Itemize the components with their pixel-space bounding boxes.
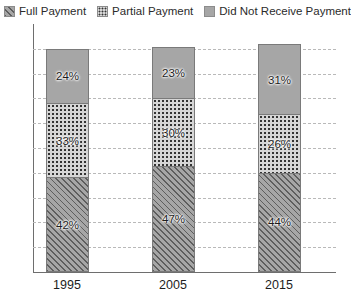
bar-segment-full-payment: 42% <box>46 177 89 272</box>
solid-swatch-icon <box>204 6 215 17</box>
bar-value-label: 44% <box>268 216 291 228</box>
bar-segment-partial-payment: 33% <box>46 103 89 177</box>
bar-group-2015: 31% 26% 44% <box>258 44 301 272</box>
bar-value-label: 30% <box>162 127 185 139</box>
bar-value-label: 47% <box>162 213 185 225</box>
chart-legend: Full Payment Partial Payment Did Not Rec… <box>0 0 344 22</box>
bar-segment-partial-payment: 30% <box>152 98 195 166</box>
bar-group-1995: 24% 33% 42% <box>46 49 89 272</box>
legend-label: Partial Payment <box>112 5 193 17</box>
bar-group-2005: 23% 30% 47% <box>152 47 195 273</box>
bar-value-label: 23% <box>162 67 185 79</box>
bar-segment-did-not-receive-payment: 23% <box>152 47 195 99</box>
x-axis-label-2015: 2015 <box>239 278 319 292</box>
legend-item-did-not-receive-payment: Did Not Receive Payment <box>204 5 351 17</box>
dotted-swatch-icon <box>97 6 108 17</box>
x-axis-label-1995: 1995 <box>27 278 107 292</box>
x-axis-line <box>33 272 336 273</box>
x-axis-label-2005: 2005 <box>133 278 213 292</box>
legend-item-partial-payment: Partial Payment <box>97 5 193 17</box>
bar-segment-partial-payment: 26% <box>258 114 301 173</box>
bar-segment-full-payment: 47% <box>152 166 195 272</box>
plot-area: 24% 33% 42% 23% 30% 47% 31% <box>33 24 336 272</box>
hatch-swatch-icon <box>4 6 15 17</box>
bar-value-label: 24% <box>56 70 79 82</box>
bar-value-label: 31% <box>268 74 291 86</box>
bar-segment-did-not-receive-payment: 31% <box>258 44 301 114</box>
bar-value-label: 33% <box>56 135 79 147</box>
bar-segment-full-payment: 44% <box>258 173 301 272</box>
bar-value-label: 26% <box>268 138 291 150</box>
legend-label: Did Not Receive Payment <box>219 5 351 17</box>
legend-item-full-payment: Full Payment <box>4 5 86 17</box>
legend-label: Full Payment <box>19 5 86 17</box>
bar-segment-did-not-receive-payment: 24% <box>46 49 89 103</box>
bar-value-label: 42% <box>56 219 79 231</box>
